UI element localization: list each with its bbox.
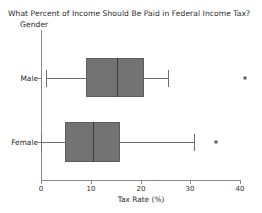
female-upper-whisker-line (120, 142, 194, 143)
x-tick-40 (240, 181, 241, 184)
male-median-line (117, 58, 118, 97)
x-tick-label-10: 10 (87, 185, 96, 193)
x-tick-0 (41, 181, 42, 184)
female-lower-whisker-line (41, 142, 66, 143)
x-tick-label-40: 40 (236, 185, 245, 193)
x-axis-label: Tax Rate (%) (118, 195, 165, 204)
x-tick-10 (91, 181, 92, 184)
x-tick-30 (190, 181, 191, 184)
y-axis-line (41, 30, 42, 180)
y-tick-label-male: Male (20, 74, 38, 83)
female-upper-whisker-cap (194, 134, 195, 151)
female-outlier-point (215, 141, 218, 144)
x-tick-label-20: 20 (137, 185, 146, 193)
male-upper-whisker-line (144, 78, 169, 79)
male-lower-whisker-cap (46, 70, 47, 87)
male-lower-whisker-line (46, 78, 87, 79)
y-tick-male (38, 78, 42, 79)
boxplot-figure: What Percent of Income Should Be Paid in… (0, 0, 262, 213)
plot-area: 0 10 20 30 40 Tax Rate (%) Male Female (0, 0, 262, 213)
x-tick-label-30: 30 (186, 185, 195, 193)
male-upper-whisker-cap (168, 70, 169, 87)
female-lower-whisker-cap (41, 134, 42, 151)
male-box (86, 58, 144, 97)
female-median-line (93, 122, 94, 162)
x-tick-20 (141, 181, 142, 184)
male-outlier-point (244, 77, 247, 80)
y-tick-label-female: Female (11, 138, 38, 147)
x-tick-label-0: 0 (39, 185, 43, 193)
